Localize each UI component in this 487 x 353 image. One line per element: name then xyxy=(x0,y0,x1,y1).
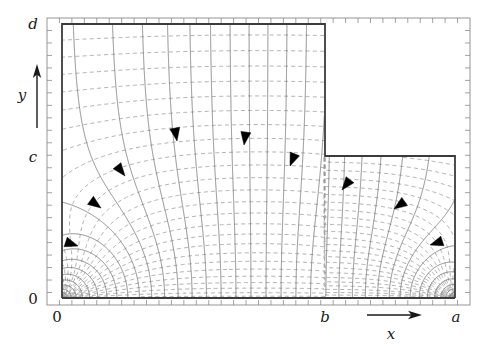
figure-background xyxy=(0,0,487,353)
x-tick-label-0: 0 xyxy=(52,308,62,326)
field-map-figure: 0 b a x 0 c d y xyxy=(0,0,487,353)
y-axis-label: y xyxy=(17,86,27,104)
x-axis-label: x xyxy=(387,325,396,343)
x-tick-label-b: b xyxy=(320,308,330,326)
y-tick-label-c: c xyxy=(29,148,38,166)
y-tick-label-0: 0 xyxy=(28,290,38,308)
x-tick-label-a: a xyxy=(452,308,461,326)
y-tick-label-d: d xyxy=(28,15,38,33)
